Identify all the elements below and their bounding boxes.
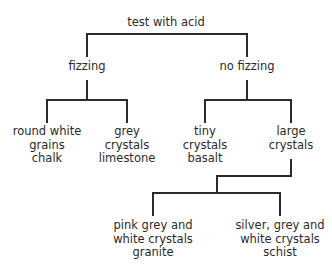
node-line: crystals	[269, 139, 314, 153]
connector-large-drop	[216, 175, 218, 193]
node-line: white crystals	[113, 233, 193, 247]
connector-root-bar	[86, 33, 248, 35]
rock-name: chalk	[13, 152, 82, 166]
rock-name: granite	[113, 246, 193, 260]
root-node-label: test with acid	[127, 16, 205, 30]
node-line: round white	[13, 125, 82, 139]
node-line: tiny	[183, 125, 228, 139]
node-line: crystals	[183, 139, 228, 153]
connector-fizzing-left	[46, 99, 48, 123]
connector-fizzing-stem	[86, 80, 88, 100]
connector-no-fizzing-right	[290, 99, 292, 123]
grey-crystals-node: grey crystals limestone	[99, 125, 156, 166]
connector-no-fizzing-left	[204, 99, 206, 123]
connector-no-fizzing-stem	[246, 80, 248, 100]
connector-fizzing-right	[126, 99, 128, 123]
node-line: large	[269, 125, 314, 139]
large-crystals-node: large crystals	[269, 125, 314, 152]
connector-large-left	[152, 192, 154, 216]
rock-name: basalt	[183, 152, 228, 166]
node-line: silver, grey and	[235, 219, 324, 233]
connector-root-left	[86, 33, 88, 57]
tiny-crystals-node: tiny crystals basalt	[183, 125, 228, 166]
connector-root-right	[246, 33, 248, 57]
connector-fizzing-bar	[46, 99, 128, 101]
connector-large-right	[279, 192, 281, 216]
rock-name: schist	[235, 246, 324, 260]
connector-no-fizzing-bar	[204, 99, 292, 101]
round-white-grains-node: round white grains chalk	[13, 125, 82, 166]
connector-large-bar	[152, 192, 281, 194]
node-line: pink grey and	[113, 219, 193, 233]
node-line: white crystals	[235, 233, 324, 247]
silver-grey-crystals-node: silver, grey and white crystals schist	[235, 219, 324, 260]
rock-name: limestone	[99, 152, 156, 166]
no-fizzing-node-label: no fizzing	[219, 60, 274, 74]
pink-grey-crystals-node: pink grey and white crystals granite	[113, 219, 193, 260]
fizzing-node-label: fizzing	[68, 60, 105, 74]
node-line: grey	[99, 125, 156, 139]
node-line: grains	[13, 139, 82, 153]
node-line: crystals	[99, 139, 156, 153]
connector-large-jog	[216, 175, 292, 177]
